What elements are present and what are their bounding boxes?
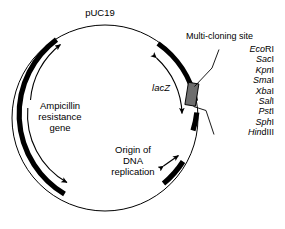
- enzyme-item: KpnI: [212, 65, 274, 75]
- lacz-label: lacZ: [140, 83, 182, 93]
- enzyme-italic-part: Sph: [255, 117, 271, 127]
- page-title: pUC19: [0, 8, 200, 18]
- enzyme-roman-part: I: [271, 86, 274, 96]
- origin-of-replication-label: Origin of DNA replication: [88, 144, 178, 177]
- enzyme-item: SalI: [212, 96, 274, 106]
- enzyme-roman-part: I: [271, 117, 274, 127]
- enzyme-roman-part: I: [271, 106, 274, 116]
- lacz-lower-arc: [193, 113, 197, 131]
- enzyme-roman-part: I: [271, 75, 274, 85]
- enzyme-item: XbaI: [212, 86, 274, 96]
- enzyme-item: PstI: [212, 106, 274, 116]
- enzyme-italic-part: Sma: [253, 75, 272, 85]
- enzyme-italic-part: Sac: [256, 54, 272, 64]
- enzyme-roman-part: I: [271, 54, 274, 64]
- enzyme-roman-part: I: [271, 96, 274, 106]
- enzyme-italic-part: Hin: [248, 127, 262, 137]
- enzyme-italic-part: Pst: [258, 106, 271, 116]
- enzyme-roman-part: dIII: [261, 127, 274, 137]
- ampicillin-resistance-gene-label: Ampicillin resistance gene: [14, 100, 106, 133]
- enzyme-italic-part: Kpn: [255, 65, 271, 75]
- enzyme-italic-part: Xba: [255, 86, 271, 96]
- enzyme-roman-part: I: [271, 65, 274, 75]
- enzyme-roman-part: RI: [265, 44, 274, 54]
- enzyme-item: HindIII: [212, 127, 274, 137]
- enzyme-item: SmaI: [212, 75, 274, 85]
- enzyme-italic-part: Eco: [249, 44, 265, 54]
- enzyme-item: SphI: [212, 117, 274, 127]
- enzyme-italic-part: Sal: [258, 96, 271, 106]
- enzyme-item: SacI: [212, 54, 274, 64]
- enzyme-item: EcoRI: [212, 44, 274, 54]
- plasmid-map-figure: pUC19 Ampicillin resistance gene Origin …: [0, 0, 285, 229]
- multi-cloning-site-title: Multi-cloning site: [186, 31, 285, 41]
- restriction-enzyme-list: EcoRISacIKpnISmaIXbaISalIPstISphIHindIII: [212, 44, 274, 138]
